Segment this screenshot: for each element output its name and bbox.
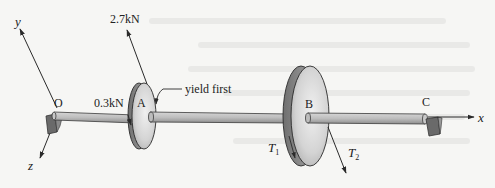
point-C-label: C <box>422 95 430 109</box>
yield-first-annotation: yield first <box>156 82 232 104</box>
shaft-segment-OA <box>52 112 136 123</box>
force-0.3kN-label: 0.3kN <box>94 96 124 110</box>
z-axis: z <box>27 128 52 173</box>
shaft-diagram: y z A B C <box>0 0 495 188</box>
force-2.7kN: 2.7kN <box>110 12 147 84</box>
x-axis-label: x <box>477 110 484 125</box>
y-axis: y <box>13 14 57 108</box>
tension-T2-subscript: 2 <box>355 153 359 162</box>
point-A-label: A <box>137 96 146 110</box>
svg-text:T1: T1 <box>268 140 279 157</box>
force-2.7kN-label: 2.7kN <box>110 12 140 26</box>
z-axis-label: z <box>27 158 33 173</box>
point-O-label: O <box>54 96 63 110</box>
y-axis-label: y <box>13 14 21 29</box>
shaft-segment-BC <box>306 113 428 124</box>
tension-T1-subscript: 1 <box>275 148 279 157</box>
svg-text:T2: T2 <box>348 145 359 162</box>
tension-T2: T2 <box>328 127 359 173</box>
shaft-segment-AB <box>149 112 291 123</box>
yield-first-label: yield first <box>185 82 232 96</box>
point-B-label: B <box>305 97 313 111</box>
